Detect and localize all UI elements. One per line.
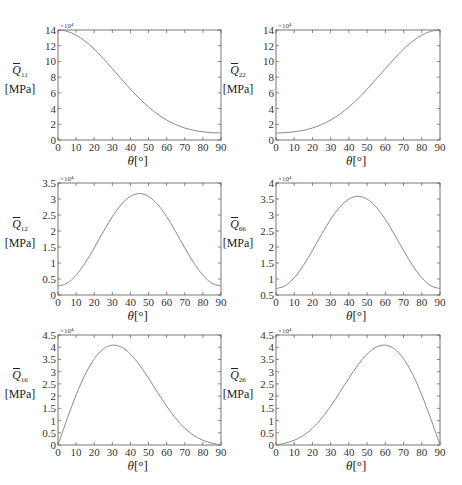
x-tick-label: 90 [435, 446, 447, 458]
plot-svg: 010203040506070809000.511.522.533.544.5×… [0, 0, 462, 485]
y-tick-label: 2 [269, 390, 275, 402]
x-tick-label: 40 [343, 446, 355, 458]
x-axis-label: θ[°] [346, 458, 366, 474]
y-tick-label: 4 [269, 341, 275, 353]
y-axis-unit: [MPa] [218, 387, 258, 401]
y-tick-label: 1 [269, 415, 275, 427]
x-tick-label: 10 [289, 446, 301, 458]
y-tick-label: 4.5 [260, 329, 274, 341]
y-tick-label: 3.5 [260, 353, 274, 365]
y-tick-label: 3 [269, 366, 275, 378]
x-tick-label: 70 [398, 446, 410, 458]
y-tick-label: 0 [269, 439, 275, 451]
y-tick-label: 0.5 [260, 427, 274, 439]
x-tick-label: 30 [325, 446, 337, 458]
y-tick-label: 1.5 [260, 402, 274, 414]
axis-multiplier: ×10⁴ [278, 327, 292, 335]
x-tick-label: 20 [307, 446, 319, 458]
y-axis-symbol: Q [230, 368, 239, 382]
x-tick-label: 50 [362, 446, 374, 458]
axes-box [276, 335, 440, 445]
y-axis-label: Q26[MPa] [218, 368, 258, 401]
data-line [276, 345, 440, 445]
x-tick-label: 0 [273, 446, 279, 458]
x-tick-label: 60 [380, 446, 392, 458]
y-tick-label: 2.5 [260, 378, 274, 390]
plot-q26: 010203040506070809000.511.522.533.544.5×… [0, 0, 231, 160]
x-tick-label: 80 [416, 446, 428, 458]
